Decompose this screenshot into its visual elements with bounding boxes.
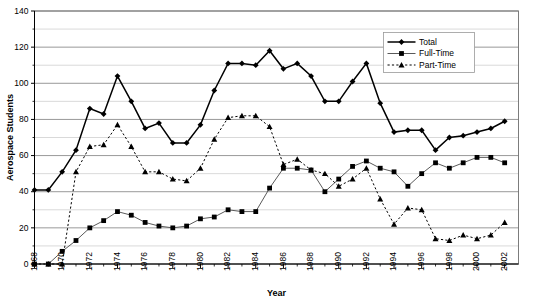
data-point [419,171,424,176]
data-point [447,166,452,171]
data-point [142,126,148,132]
chart-legend[interactable]: TotalFull-TimePart-Time [384,33,475,73]
data-point [87,144,93,149]
data-point [197,165,203,170]
data-point [211,136,217,141]
data-point [101,218,106,223]
data-point [240,209,245,214]
legend-label: Part-Time [419,60,456,70]
data-point [295,166,300,171]
data-point [115,73,121,79]
data-point [170,176,176,181]
legend-label: Total [419,37,437,47]
x-tick-label: 1982 [222,252,232,271]
data-point [225,115,231,120]
series-full-time [32,155,507,266]
data-point [115,209,120,214]
x-tick-label: 1992 [361,252,371,271]
data-point [405,184,410,189]
data-point [392,169,397,174]
x-tick-label: 2002 [499,252,509,271]
y-tick-label: 100 [14,78,28,88]
data-point [323,189,328,194]
legend-swatch-marker [399,51,404,56]
data-point [87,106,93,112]
data-point [87,225,92,230]
data-point [433,160,438,165]
y-axis-title: Aerospace Students [5,94,15,181]
data-point [184,224,189,229]
x-tick-label: 1990 [333,252,343,271]
x-tick-label: 1968 [29,252,39,271]
data-point [488,155,493,160]
data-point [461,160,466,165]
data-point [212,215,217,220]
data-point [294,156,300,161]
data-point [502,219,508,224]
data-point [73,169,79,174]
data-point [198,216,203,221]
data-point [101,142,107,147]
data-point [280,162,286,167]
data-point [267,124,273,129]
data-point [128,98,134,104]
line-chart: 0204060801001201401968197019721974197619… [0,0,533,307]
data-point [475,155,480,160]
x-tick-label: 1974 [112,252,122,271]
chart-container: 0204060801001201401968197019721974197619… [0,0,533,307]
data-point [74,238,79,243]
data-point [460,232,466,237]
data-point [378,166,383,171]
data-point [405,205,411,210]
y-tick-label: 80 [19,114,29,124]
data-point [170,225,175,230]
data-point [101,111,107,117]
data-point [211,88,217,94]
data-point [391,129,397,135]
data-series [32,48,508,267]
data-point [142,169,148,174]
data-point [267,186,272,191]
data-point [405,127,411,133]
x-tick-label: 1986 [278,252,288,271]
legend-label: Full-Time [419,48,454,58]
y-tick-label: 60 [19,150,29,160]
x-tick-label: 2000 [471,252,481,271]
data-point [253,209,258,214]
data-point [157,224,162,229]
y-tick-label: 20 [19,223,29,233]
data-point [377,196,383,201]
x-tick-label: 1978 [167,252,177,271]
x-tick-label: 1980 [195,252,205,271]
x-tick-label: 1994 [388,252,398,271]
data-point [364,159,369,164]
data-point [239,113,245,118]
y-tick-label: 120 [14,42,28,52]
data-point [350,176,356,181]
data-point [114,122,120,127]
data-point [433,236,439,241]
data-point [143,220,148,225]
data-point [474,129,480,135]
x-tick-label: 1988 [305,252,315,271]
data-point [156,169,162,174]
data-point [129,213,134,218]
data-point [336,177,341,182]
data-point [128,144,134,149]
x-tick-label: 1972 [84,252,94,271]
data-point [322,98,328,104]
data-point [363,165,369,170]
data-point [502,160,507,165]
x-tick-label: 1984 [250,252,260,271]
data-point [488,126,494,132]
x-tick-label: 1996 [416,252,426,271]
x-tick-label: 1976 [139,252,149,271]
data-point [226,207,231,212]
data-point [350,164,355,169]
x-tick-label: 1998 [444,252,454,271]
y-tick-label: 140 [14,6,28,16]
x-axis-title: Year [267,288,287,298]
y-tick-label: 40 [19,186,29,196]
